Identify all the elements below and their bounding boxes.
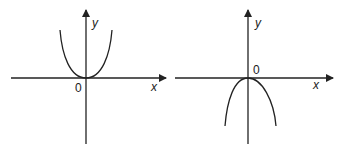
right-x-label: x [312, 78, 320, 92]
left-graph: y 0 x [11, 10, 166, 144]
diagram-canvas: y 0 x y 0 x [0, 0, 338, 152]
left-y-label: y [91, 16, 99, 30]
right-y-label: y [254, 16, 262, 30]
left-x-label: x [150, 80, 158, 94]
right-curve [225, 78, 276, 126]
right-graph: y 0 x [175, 10, 333, 144]
right-origin-label: 0 [253, 63, 260, 77]
left-origin-label: 0 [75, 81, 82, 95]
